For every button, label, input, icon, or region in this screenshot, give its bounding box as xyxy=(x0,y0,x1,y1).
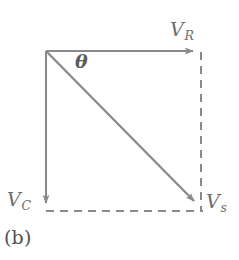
label-vc: VC xyxy=(7,190,31,212)
label-vs-symbol: V xyxy=(206,190,220,212)
label-vr: VR xyxy=(170,20,194,42)
label-vs-subscript: s xyxy=(220,200,227,215)
figure-caption: (b) xyxy=(4,228,32,247)
phasor-diagram-canvas xyxy=(0,0,239,260)
phasor-diagram-figure: VR VC Vs θ (b) xyxy=(0,0,239,260)
vector-vs-arrow xyxy=(46,51,194,201)
label-theta-angle: θ xyxy=(75,52,88,71)
label-vc-symbol: V xyxy=(7,188,21,210)
label-vr-subscript: R xyxy=(184,28,194,43)
label-vc-subscript: C xyxy=(21,198,31,213)
label-vr-symbol: V xyxy=(170,18,184,40)
label-vs: Vs xyxy=(206,192,227,214)
